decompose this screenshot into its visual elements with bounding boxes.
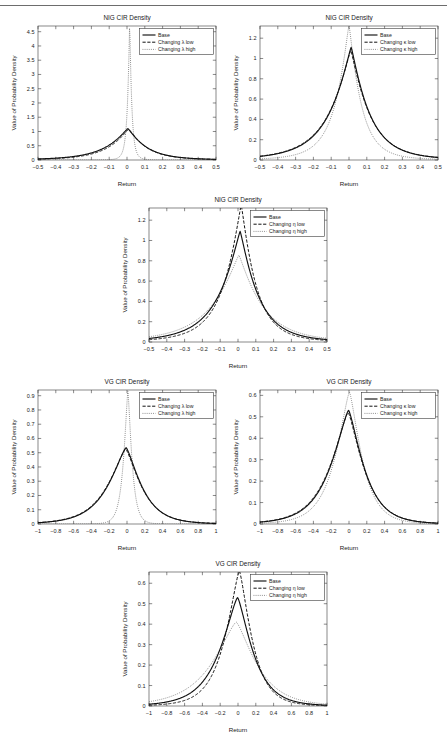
x-tick-label: 0.2 [140, 528, 148, 534]
x-tick-label: −0.5 [32, 164, 43, 170]
chart-panel-vg-eta: VG CIR Density−1−0.8−0.6−0.4−0.200.20.40… [113, 554, 335, 736]
y-tick-label: 0.2 [248, 137, 256, 143]
x-tick-label: 0.2 [380, 164, 388, 170]
x-tick-label: 0 [347, 528, 350, 534]
chart-legend: BaseChanging κ lowChanging κ high [361, 393, 435, 419]
y-tick-label: 0.6 [26, 435, 34, 441]
y-tick-label: 0 [142, 703, 145, 709]
y-tick-label: 0 [253, 521, 256, 527]
legend-label: Base [269, 578, 281, 584]
x-tick-label: 0.2 [362, 528, 370, 534]
y-tick-label: 0.6 [137, 580, 145, 586]
series-curve-solid [149, 598, 327, 706]
chart-svg: VG CIR Density−1−0.8−0.6−0.4−0.200.20.40… [2, 372, 224, 554]
x-axis-label: Return [339, 544, 358, 551]
legend-label: Changing η low [269, 585, 305, 591]
x-tick-label: 0.2 [269, 346, 277, 352]
y-tick-label: 0.4 [248, 116, 256, 122]
legend-label: Changing η high [269, 592, 307, 598]
chart-title: VG CIR Density [104, 378, 150, 386]
y-tick-label: 0.8 [248, 76, 256, 82]
x-tick-label: −0.1 [103, 164, 114, 170]
chart-panel-nig-lambda: NIG CIR Density−0.5−0.4−0.3−0.2−0.100.10… [2, 8, 224, 190]
y-tick-label: 0 [31, 521, 34, 527]
x-tick-label: −0.2 [196, 346, 207, 352]
x-tick-label: −0.1 [325, 164, 336, 170]
series-curve-dashed [38, 449, 216, 523]
x-tick-label: −0.6 [290, 528, 301, 534]
x-axis-label: Return [117, 544, 136, 551]
x-axis-label: Return [228, 726, 247, 733]
y-tick-label: 3 [31, 71, 34, 77]
x-tick-label: −0.6 [179, 710, 190, 716]
x-tick-label: −0.3 [179, 346, 190, 352]
legend-label: Changing λ low [158, 403, 194, 409]
chart-panel-vg-kappa: VG CIR Density−1−0.8−0.6−0.4−0.200.20.40… [224, 372, 446, 554]
chart-svg: NIG CIR Density−0.5−0.4−0.3−0.2−0.100.10… [113, 190, 335, 372]
y-axis-label: Value of Probability Density [121, 236, 128, 312]
chart-svg: NIG CIR Density−0.5−0.4−0.3−0.2−0.100.10… [2, 8, 224, 190]
chart-svg: VG CIR Density−1−0.8−0.6−0.4−0.200.20.40… [113, 554, 335, 736]
y-axis-label: Value of Probability Density [10, 418, 17, 494]
y-tick-label: 2 [31, 100, 34, 106]
legend-label: Changing η low [269, 221, 305, 227]
x-tick-label: 0.6 [287, 710, 295, 716]
x-tick-label: 0.5 [323, 346, 331, 352]
series-curve-solid [149, 231, 327, 339]
y-tick-label: 1.2 [137, 217, 145, 223]
x-tick-label: −0.2 [307, 164, 318, 170]
chart-title: NIG CIR Density [103, 14, 151, 22]
x-tick-label: −0.8 [161, 710, 172, 716]
x-tick-label: 0.3 [398, 164, 406, 170]
x-tick-label: 0 [236, 710, 239, 716]
x-tick-label: 0.6 [176, 528, 184, 534]
x-tick-label: −0.4 [307, 528, 318, 534]
series-curve-dotted [149, 622, 327, 704]
chart-panel-nig-kappa: NIG CIR Density−0.5−0.4−0.3−0.2−0.100.10… [224, 8, 446, 190]
chart-title: NIG CIR Density [214, 196, 262, 204]
legend-label: Changing κ low [380, 403, 416, 409]
x-tick-label: −0.5 [254, 164, 265, 170]
x-tick-label: 1 [325, 710, 328, 716]
x-tick-label: 0.5 [212, 164, 220, 170]
x-tick-label: −0.2 [85, 164, 96, 170]
y-tick-label: 0.3 [137, 642, 145, 648]
legend-label: Changing κ low [380, 39, 416, 45]
x-tick-label: 0.4 [269, 710, 277, 716]
x-tick-label: 0.4 [380, 528, 388, 534]
y-tick-label: 0.6 [248, 392, 256, 398]
series-curve-solid [260, 47, 438, 157]
x-tick-label: −1 [145, 710, 151, 716]
y-tick-label: 0.3 [26, 478, 34, 484]
chart-legend: BaseChanging κ lowChanging κ high [361, 29, 435, 55]
x-tick-label: 0.2 [158, 164, 166, 170]
x-tick-label: 1 [214, 528, 217, 534]
series-curve-solid [38, 129, 216, 160]
y-axis-label: Value of Probability Density [232, 418, 239, 494]
legend-label: Changing κ high [380, 46, 418, 52]
y-tick-label: 0.5 [137, 601, 145, 607]
x-tick-label: 0.8 [194, 528, 202, 534]
y-tick-label: 0.1 [137, 683, 145, 689]
y-tick-label: 1 [31, 128, 34, 134]
y-tick-label: 0.4 [248, 435, 256, 441]
figure-row-1: NIG CIR Density−0.5−0.4−0.3−0.2−0.100.10… [0, 8, 447, 190]
x-tick-label: 0.8 [416, 528, 424, 534]
x-tick-label: 0.5 [434, 164, 442, 170]
y-tick-label: 0.4 [137, 298, 145, 304]
y-tick-label: 0.6 [137, 278, 145, 284]
x-tick-label: −0.3 [290, 164, 301, 170]
x-tick-label: −0.3 [68, 164, 79, 170]
y-axis-label: Value of Probability Density [10, 54, 17, 130]
y-axis-label: Value of Probability Density [232, 54, 239, 130]
legend-label: Base [158, 32, 170, 38]
legend-label: Base [158, 396, 170, 402]
chart-legend: BaseChanging η lowChanging η high [250, 211, 324, 237]
chart-legend: BaseChanging η lowChanging η high [250, 575, 324, 601]
y-tick-label: 0.3 [248, 457, 256, 463]
x-tick-label: −0.2 [325, 528, 336, 534]
x-tick-label: 0.3 [287, 346, 295, 352]
x-tick-label: 0.4 [194, 164, 202, 170]
x-tick-label: −0.1 [214, 346, 225, 352]
y-tick-label: 0.2 [137, 662, 145, 668]
